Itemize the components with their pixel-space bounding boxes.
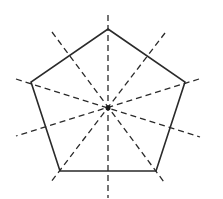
- center-point: [106, 106, 111, 111]
- pentagon-symmetry-diagram: [0, 0, 223, 199]
